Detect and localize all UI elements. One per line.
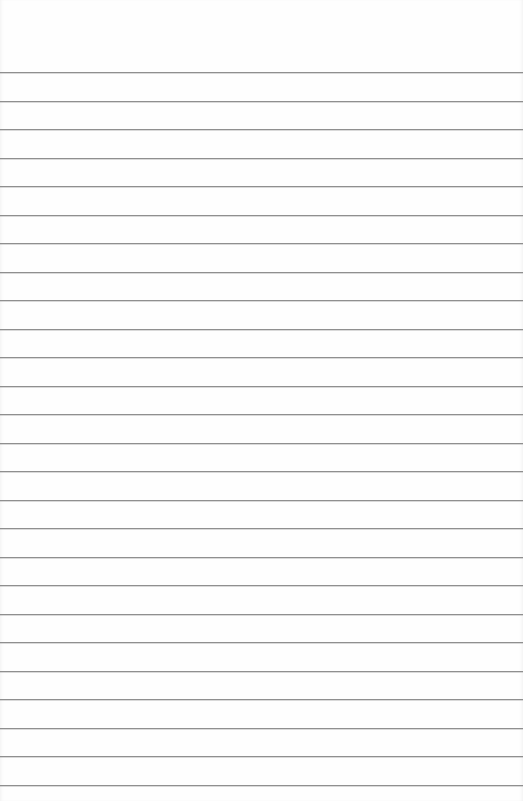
ruled-line bbox=[0, 72, 523, 73]
ruled-line bbox=[0, 414, 523, 415]
ruled-line bbox=[0, 642, 523, 643]
ruled-line bbox=[0, 129, 523, 130]
ruled-line bbox=[0, 585, 523, 586]
ruled-line bbox=[0, 272, 523, 273]
ruled-line bbox=[0, 671, 523, 672]
ruled-line bbox=[0, 471, 523, 472]
ruled-line bbox=[0, 215, 523, 216]
ruled-line bbox=[0, 329, 523, 330]
ruled-line bbox=[0, 101, 523, 102]
ruled-line bbox=[0, 785, 523, 786]
ruled-line bbox=[0, 357, 523, 358]
ruled-line bbox=[0, 300, 523, 301]
ruled-line bbox=[0, 500, 523, 501]
ruled-line bbox=[0, 528, 523, 529]
ruled-line bbox=[0, 186, 523, 187]
ruled-line bbox=[0, 386, 523, 387]
lined-paper-sheet bbox=[0, 0, 523, 801]
ruled-line bbox=[0, 699, 523, 700]
ruled-line bbox=[0, 728, 523, 729]
ruled-line bbox=[0, 243, 523, 244]
ruled-line bbox=[0, 443, 523, 444]
ruled-line bbox=[0, 614, 523, 615]
ruled-line bbox=[0, 557, 523, 558]
ruled-line bbox=[0, 756, 523, 757]
ruled-line bbox=[0, 158, 523, 159]
